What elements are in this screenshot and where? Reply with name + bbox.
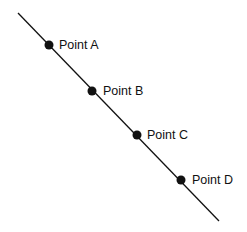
point-d-marker <box>177 176 186 185</box>
point-d-label: Point D <box>192 173 233 187</box>
point-c-label: Point C <box>147 128 188 142</box>
point-a-label: Point A <box>59 38 99 52</box>
point-a: Point A <box>45 38 100 52</box>
diagram-canvas: Point A Point B Point C Point D <box>0 0 247 232</box>
point-b: Point B <box>88 84 144 98</box>
point-b-marker <box>88 87 97 96</box>
point-c-marker <box>133 131 142 140</box>
point-a-marker <box>45 41 54 50</box>
point-b-label: Point B <box>103 84 143 98</box>
